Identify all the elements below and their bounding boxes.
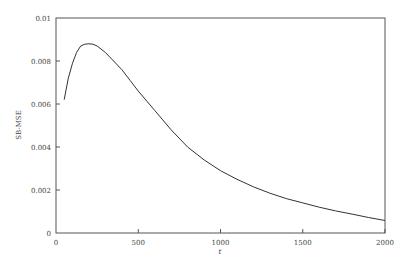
x-tick-label: 500 bbox=[132, 239, 145, 247]
y-tick-label: 0 bbox=[47, 230, 51, 238]
x-tick-label: 0 bbox=[54, 239, 58, 247]
y-tick-label: 0.004 bbox=[31, 144, 52, 152]
y-tick-label: 0.008 bbox=[31, 58, 51, 66]
plot-frame bbox=[56, 18, 385, 233]
sb-mse-curve bbox=[64, 44, 385, 221]
x-axis-ticks: 0500100015002000 bbox=[54, 229, 394, 247]
x-tick-label: 2000 bbox=[376, 239, 394, 247]
x-tick-label: 1500 bbox=[294, 239, 312, 247]
x-tick-label: 1000 bbox=[212, 239, 230, 247]
x-axis-label: t bbox=[219, 248, 222, 256]
y-tick-label: 0.002 bbox=[31, 187, 51, 195]
line-chart: 0500100015002000 00.0020.0040.0060.0080.… bbox=[0, 0, 405, 269]
y-axis-label: SB-MSE bbox=[15, 110, 23, 140]
y-tick-label: 0.006 bbox=[31, 101, 52, 109]
y-tick-label: 0.01 bbox=[35, 15, 51, 23]
